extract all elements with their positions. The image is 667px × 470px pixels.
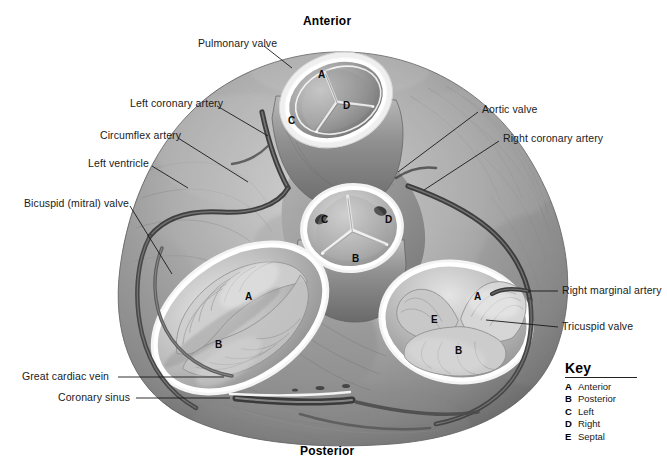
label-left-coronary-artery: Left coronary artery — [130, 98, 223, 109]
label-great-cardiac-vein: Great cardiac vein — [22, 371, 109, 382]
label-pulmonary-valve: Pulmonary valve — [198, 38, 277, 49]
key-row-b: B Posterior — [565, 393, 661, 405]
cusp-letter-aortic-b: B — [352, 253, 359, 264]
key-text-d: Right — [578, 418, 600, 430]
cusp-letter-tricuspid-e: E — [431, 314, 438, 325]
key-text-e: Septal — [578, 431, 605, 443]
cusp-letter-aortic-c: C — [321, 214, 328, 225]
label-circumflex-artery: Circumflex artery — [100, 130, 181, 141]
key-text-a: Anterior — [578, 381, 611, 393]
cusp-letter-pulmonary-d: D — [343, 100, 350, 111]
key-row-d: D Right — [565, 418, 661, 430]
label-bicuspid-mitral-valve: Bicuspid (mitral) valve — [24, 198, 129, 209]
figure-canvas: Anterior Posterior Pulmonary valve Left … — [0, 0, 667, 470]
label-coronary-sinus: Coronary sinus — [58, 392, 130, 403]
key-letter-a: A — [565, 381, 578, 393]
key-row-e: E Septal — [565, 431, 661, 443]
key-letter-d: D — [565, 418, 578, 430]
cusp-letter-tricuspid-b: B — [455, 345, 462, 356]
key-row-c: C Left — [565, 406, 661, 418]
label-right-coronary-artery: Right coronary artery — [503, 133, 603, 144]
key-letter-c: C — [565, 406, 578, 418]
label-left-ventricle: Left ventricle — [88, 158, 149, 169]
cusp-letter-tricuspid-a: A — [474, 291, 481, 302]
orientation-label-posterior: Posterior — [300, 444, 354, 458]
label-right-marginal-artery: Right marginal artery — [562, 285, 662, 296]
key-legend: Key A Anterior B Posterior C Left D Righ… — [565, 360, 661, 443]
key-text-c: Left — [578, 406, 594, 418]
label-tricuspid-valve: Tricuspid valve — [562, 321, 633, 332]
key-divider — [565, 377, 637, 378]
key-text-b: Posterior — [578, 393, 616, 405]
cusp-letter-aortic-d: D — [385, 214, 392, 225]
cusp-letter-pulmonary-a: A — [318, 69, 325, 80]
key-letter-e: E — [565, 431, 578, 443]
key-title: Key — [565, 360, 661, 376]
cusp-letter-bicuspid-b: B — [215, 339, 222, 350]
key-row-a: A Anterior — [565, 381, 661, 393]
cusp-letter-pulmonary-c: C — [288, 115, 295, 126]
label-aortic-valve: Aortic valve — [482, 104, 537, 115]
key-letter-b: B — [565, 393, 578, 405]
orientation-label-anterior: Anterior — [303, 14, 351, 28]
cusp-letter-bicuspid-a: A — [245, 291, 252, 302]
